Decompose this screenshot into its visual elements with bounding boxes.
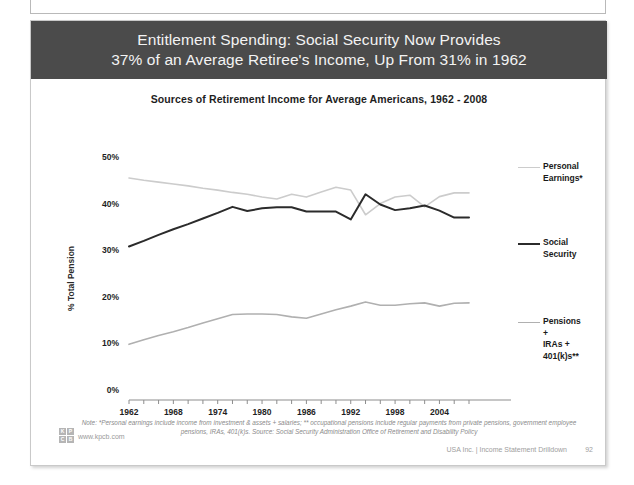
- x-tick-label: 1962: [107, 407, 151, 417]
- top-partial-strip: [30, 0, 606, 14]
- kpcb-url[interactable]: www.kpcb.com: [78, 433, 125, 440]
- chart-area: % Total Pension 0%10%20%30%40%50% 196219…: [31, 116, 607, 406]
- x-tick-label: 1980: [240, 407, 284, 417]
- slide-canvas: Entitlement Spending: Social Security No…: [30, 20, 606, 466]
- headline-line-1: Entitlement Spending: Social Security No…: [137, 30, 500, 50]
- y-tick-label: 0%: [79, 385, 119, 395]
- y-tick-label: 30%: [79, 245, 119, 255]
- legend-swatch: [518, 322, 540, 323]
- x-tick-label: 1986: [284, 407, 328, 417]
- x-tick-label: 2004: [417, 407, 461, 417]
- x-tick-label: 1968: [151, 407, 195, 417]
- page-number: 92: [585, 446, 593, 453]
- x-tick-label: 1992: [329, 407, 373, 417]
- footer-breadcrumb: USA Inc. | Income Statement Drilldown: [447, 446, 567, 453]
- chart-footnote: Note: *Personal earnings include income …: [79, 418, 579, 436]
- chart-title: Sources of Retirement Income for Average…: [31, 93, 607, 105]
- logo-letter-p: P: [67, 428, 74, 435]
- screenshot-root: Entitlement Spending: Social Security No…: [0, 0, 634, 485]
- x-tick-label: 1998: [373, 407, 417, 417]
- legend-label: Personal Earnings*: [543, 161, 583, 184]
- y-tick-label: 40%: [79, 199, 119, 209]
- y-tick-label: 50%: [79, 152, 119, 162]
- logo-letter-k: K: [59, 428, 66, 435]
- headline-line-2: 37% of an Average Retiree's Income, Up F…: [111, 50, 527, 70]
- series-line-2: [129, 302, 469, 344]
- legend-label: Pensions + IRAs + 401(k)s**: [543, 316, 581, 362]
- x-tick-label: 1974: [196, 407, 240, 417]
- logo-letter-c: C: [59, 436, 66, 443]
- legend-swatch: [518, 167, 540, 168]
- slide-headline-band: Entitlement Spending: Social Security No…: [31, 21, 607, 79]
- y-tick-label: 10%: [79, 338, 119, 348]
- kpcb-logo: K P C B: [59, 428, 74, 443]
- legend-label: Social Security: [543, 237, 577, 260]
- y-tick-label: 20%: [79, 292, 119, 302]
- legend-swatch: [518, 243, 540, 245]
- logo-letter-b: B: [67, 436, 74, 443]
